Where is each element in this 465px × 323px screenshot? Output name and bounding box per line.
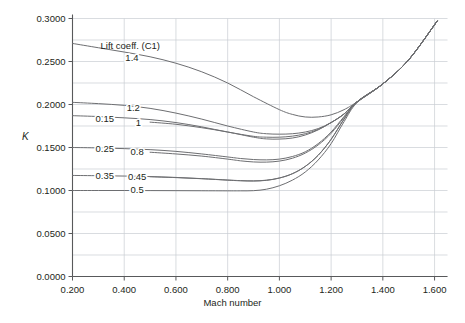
chart-plot-area: 1.41.41.21.20.150.15110.250.250.80.80.35… [0,0,465,323]
y-tick-label: 0.3000 [36,13,65,24]
series-curve [150,21,437,181]
series-inline-labels: 1.41.41.21.20.150.15110.250.250.80.80.35… [96,52,147,195]
series-label: 1.4 [125,52,138,63]
series-label: 1.2 [127,102,140,113]
x-tick-label: 1.600 [423,284,447,295]
x-tick-label: 1.000 [268,284,292,295]
series-label: 0.8 [131,146,144,157]
series-label: 1 [136,117,141,128]
y-tick-label: 0.1500 [36,142,65,153]
y-tick-label: 0.0500 [36,228,65,239]
y-tick-label: 0.2000 [36,99,65,110]
series-label: 0.25 [96,143,115,154]
x-tick-label: 1.200 [319,284,343,295]
series-label: 0.5 [131,184,144,195]
x-tick-label: 0.200 [61,284,85,295]
y-tick-label: 0.2500 [36,56,65,67]
series-curve [150,21,437,139]
x-axis-title: Mach number [0,297,465,308]
x-tick-label: 0.600 [164,284,188,295]
series-label: 0.35 [96,170,115,181]
x-tick-label: 0.800 [216,284,240,295]
legend-title-text: Lift coeff. (C1) [101,40,161,51]
series-label: 0.45 [128,171,147,182]
chart-figure: 1.41.41.21.20.150.15110.250.250.80.80.35… [0,0,465,323]
series-curve [150,21,437,162]
y-tick-label: 0.1000 [36,185,65,196]
series-curve [73,21,438,137]
legend-title: Lift coeff. (C1) [101,40,161,51]
series-curve [73,21,438,134]
x-tick-label: 1.400 [371,284,395,295]
y-tick-label: 0.0000 [36,271,65,282]
series-label: 0.15 [96,113,115,124]
y-axis-title: K [22,131,29,142]
x-tick-label: 0.400 [112,284,136,295]
